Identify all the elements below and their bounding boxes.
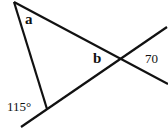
angle-70-label: 70 [145, 52, 158, 65]
angle-115-label: 115° [7, 100, 31, 113]
angle-a-label: a [25, 12, 33, 27]
line-bottom-to-upper-right [21, 27, 167, 127]
angle-b-label: b [93, 51, 101, 66]
geometry-diagram: a b 70 115° [0, 0, 168, 131]
